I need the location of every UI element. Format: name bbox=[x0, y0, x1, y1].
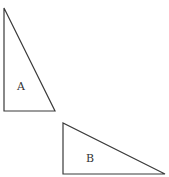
triangle-a-shape bbox=[4, 8, 55, 111]
diagram-canvas: A B bbox=[0, 0, 169, 177]
triangle-a-label: A bbox=[16, 80, 26, 93]
triangle-b-shape bbox=[63, 123, 165, 174]
triangle-b: B bbox=[63, 123, 165, 174]
triangle-b-label: B bbox=[86, 152, 94, 165]
triangle-a: A bbox=[4, 8, 55, 111]
